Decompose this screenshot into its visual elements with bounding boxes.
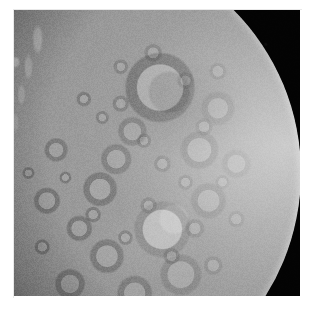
astronomy-image-frame bbox=[14, 10, 300, 296]
screenshot-viewport: cratered icy moon, crescent/gibbous phas… bbox=[0, 0, 310, 310]
moon-disk bbox=[14, 10, 300, 296]
bright-limb-rim bbox=[14, 10, 300, 296]
